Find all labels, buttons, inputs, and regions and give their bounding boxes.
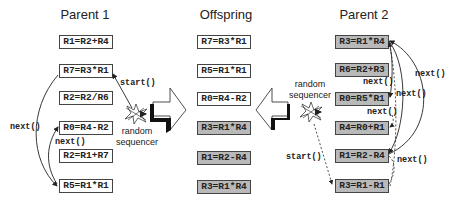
sequencer-line2: sequencer: [275, 90, 345, 101]
parent2-next-label: next(): [397, 155, 428, 165]
sequencer-line2: sequencer: [102, 137, 172, 148]
diagram-connectors: [0, 0, 455, 205]
parent1-sequencer-star-icon: [125, 104, 147, 124]
parent2-sequencer-label: random sequencer: [275, 79, 345, 101]
parent2-sequencer-star-icon: [300, 102, 322, 122]
parent1-next-curve-inner: [48, 127, 58, 184]
parent2-next-label: next(): [367, 107, 398, 117]
parent2-start-label: start(): [286, 152, 322, 162]
parent2-next-label: next(): [363, 77, 394, 87]
parent1-next-label-inner: next(): [55, 137, 86, 147]
sequencer-line1: random: [275, 79, 345, 90]
parent2-next-inner: [389, 41, 392, 97]
parent1-next-label-outer: next(): [10, 122, 41, 132]
parent2-next-label: next(): [396, 89, 427, 99]
parent1-sequencer-label: random sequencer: [102, 126, 172, 148]
sequencer-line1: random: [102, 126, 172, 137]
parent1-start-label: start(): [120, 78, 156, 88]
parent2-next-label: next(): [415, 69, 446, 79]
